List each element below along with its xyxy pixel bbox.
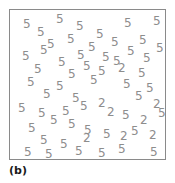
distractor-glyph-5: 5: [47, 38, 55, 50]
distractor-glyph-5: 5: [50, 114, 58, 126]
distractor-glyph-5: 5: [67, 33, 75, 45]
distractor-glyph-5: 5: [56, 13, 64, 25]
distractor-glyph-5: 5: [143, 52, 151, 64]
target-glyph-2: 2: [149, 129, 157, 141]
visual-search-array: 5555555555555555555555555255555555252555…: [9, 9, 166, 160]
distractor-glyph-5: 5: [23, 18, 31, 30]
distractor-glyph-5: 5: [56, 80, 64, 92]
distractor-glyph-5: 5: [34, 63, 42, 75]
distractor-glyph-5: 5: [124, 17, 132, 29]
distractor-glyph-5: 5: [76, 20, 84, 32]
distractor-glyph-5: 5: [98, 147, 106, 159]
distractor-glyph-5: 5: [75, 145, 83, 157]
distractor-glyph-5: 5: [127, 45, 135, 57]
distractor-glyph-5: 5: [62, 105, 70, 117]
target-glyph-2: 2: [140, 114, 148, 126]
distractor-glyph-5: 5: [118, 143, 126, 155]
distractor-glyph-5: 5: [131, 125, 139, 137]
distractor-glyph-5: 5: [37, 26, 45, 38]
distractor-glyph-5: 5: [156, 42, 164, 54]
distractor-glyph-5: 5: [122, 109, 130, 121]
distractor-glyph-5: 5: [27, 76, 35, 88]
distractor-glyph-5: 5: [60, 138, 68, 150]
target-glyph-2: 2: [120, 130, 128, 142]
target-glyph-2: 2: [98, 97, 106, 109]
distractor-glyph-5: 5: [135, 90, 143, 102]
figure-label: (b): [9, 164, 27, 177]
distractor-glyph-5: 5: [28, 122, 36, 134]
distractor-glyph-5: 5: [68, 68, 76, 80]
distractor-glyph-5: 5: [98, 65, 106, 77]
distractor-glyph-5: 5: [18, 102, 26, 114]
distractor-glyph-5: 5: [146, 82, 154, 94]
distractor-glyph-5: 5: [150, 146, 158, 158]
distractor-glyph-5: 5: [153, 15, 161, 27]
distractor-glyph-5: 5: [43, 88, 51, 100]
distractor-glyph-5: 5: [24, 146, 32, 158]
target-glyph-2: 2: [107, 106, 115, 118]
distractor-glyph-5: 5: [40, 134, 48, 146]
distractor-glyph-5: 5: [102, 51, 110, 63]
distractor-glyph-5: 5: [38, 107, 46, 119]
distractor-glyph-5: 5: [90, 74, 98, 86]
distractor-glyph-5: 5: [88, 41, 96, 53]
distractor-glyph-5: 5: [68, 118, 76, 130]
target-glyph-2: 2: [83, 132, 91, 144]
target-glyph-2: 2: [118, 62, 126, 74]
distractor-glyph-5: 5: [111, 36, 119, 48]
distractor-glyph-5: 5: [72, 92, 80, 104]
distractor-glyph-5: 5: [45, 148, 53, 160]
distractor-glyph-5: 5: [22, 50, 30, 62]
distractor-glyph-5: 5: [96, 28, 104, 40]
distractor-glyph-5: 5: [58, 56, 66, 68]
distractor-glyph-5: 5: [103, 128, 111, 140]
distractor-glyph-5: 5: [158, 107, 166, 119]
figure-panel: 5555555555555555555555555255555555252555…: [0, 0, 175, 183]
distractor-glyph-5: 5: [138, 67, 146, 79]
distractor-glyph-5: 5: [123, 78, 131, 90]
distractor-glyph-5: 5: [40, 44, 48, 56]
distractor-glyph-5: 5: [139, 34, 147, 46]
distractor-glyph-5: 5: [80, 100, 88, 112]
distractor-glyph-5: 5: [83, 60, 91, 72]
